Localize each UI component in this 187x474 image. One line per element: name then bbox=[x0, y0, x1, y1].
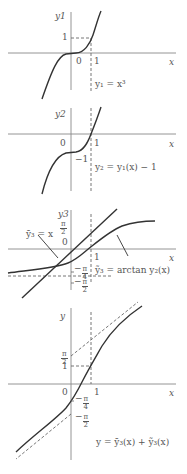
panel-4-y-tick-one: 1 bbox=[62, 362, 68, 371]
panel-3-x-tick-label: 1 bbox=[94, 253, 100, 262]
line-y3-bar bbox=[22, 209, 117, 298]
minus-sign: − bbox=[75, 411, 83, 421]
panel-4-y-tick-neg-half-pi: −π2 bbox=[75, 412, 89, 429]
panel-4-x-axis-label: x bbox=[169, 389, 174, 398]
minus-sign: − bbox=[75, 393, 83, 403]
panel-2-x-axis-label: x bbox=[169, 140, 174, 149]
panel-3-origin-label: 0 bbox=[62, 238, 68, 247]
panel-4-y-tick-neg-quarter-pi: −π4 bbox=[75, 394, 89, 411]
panel-3-y-tick-neg-half-pi: −π2 bbox=[74, 277, 88, 294]
panel-4-y-axis-label: y bbox=[60, 312, 65, 321]
panel-3-line-label: ȳ₃ = x bbox=[26, 230, 53, 239]
dashed-asymptote-upper bbox=[71, 302, 138, 356]
panel-2-origin-label: 0 bbox=[60, 139, 66, 148]
panel-4-origin-label: 0 bbox=[62, 388, 68, 397]
panel-1-x-axis-label: x bbox=[169, 58, 174, 67]
minus-sign: − bbox=[74, 276, 82, 286]
dashed-asymptote-lower bbox=[16, 414, 71, 459]
panel-3-y-axis-label: y3 bbox=[58, 210, 69, 219]
panel-1-y-tick-label: 1 bbox=[62, 33, 68, 42]
pointer-line-tilde bbox=[117, 235, 128, 256]
panel-3-curve-label: ỹ₃ = arctan y₂(x) bbox=[95, 266, 170, 275]
panel-2-x-tick-label: 1 bbox=[94, 139, 100, 148]
frac-den: 2 bbox=[61, 229, 65, 236]
curve-y2 bbox=[42, 107, 101, 194]
frac-den: 2 bbox=[83, 287, 87, 294]
panel-3-y-tick-half-pi: π2 bbox=[60, 219, 67, 236]
panel-1-x-tick-label: 1 bbox=[94, 57, 100, 66]
curve-y-sum bbox=[16, 306, 142, 452]
panel-1-curve-label: y₁ = x³ bbox=[95, 80, 126, 89]
panel-2-curve-label: y₂ = y₁(x) − 1 bbox=[95, 163, 157, 172]
panel-3-x-axis-label: x bbox=[169, 254, 174, 263]
panel-1-y-axis-label: y1 bbox=[55, 12, 66, 21]
panel-4-x-tick-label: 1 bbox=[94, 388, 100, 397]
panel-3 bbox=[8, 209, 176, 298]
panel-4-curve-label: y = ȳ₃(x) + ỹ₃(x) bbox=[96, 438, 169, 447]
minus-sign: − bbox=[74, 263, 82, 273]
panel-1-origin-label: 0 bbox=[76, 57, 82, 66]
panel-2 bbox=[8, 107, 176, 194]
curve-y1-cubic bbox=[42, 11, 101, 99]
panel-2-y-axis-label: y2 bbox=[55, 110, 66, 119]
frac-den: 2 bbox=[84, 422, 88, 429]
panel-2-y-tick-label: −1 bbox=[75, 155, 88, 164]
frac-den: 4 bbox=[84, 404, 88, 411]
panel-1 bbox=[8, 11, 176, 99]
